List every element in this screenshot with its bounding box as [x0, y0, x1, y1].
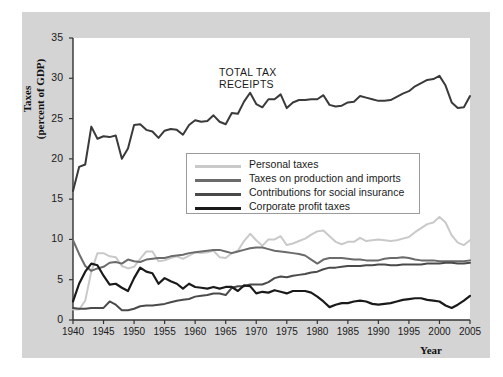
y-tick-label: 35	[37, 31, 63, 43]
legend: Personal taxesTaxes on production and im…	[186, 153, 420, 214]
total-tax-receipts-annotation: TOTAL TAX RECEIPTS	[219, 66, 277, 90]
y-axis-label: Taxes (percent of GDP)	[21, 39, 47, 159]
legend-item[interactable]: Taxes on production and imports	[195, 173, 419, 187]
y-tick-label: 10	[37, 232, 63, 244]
legend-item[interactable]: Corporate profit taxes	[195, 201, 419, 215]
series-line	[73, 264, 470, 308]
y-tick-label: 30	[37, 71, 63, 83]
legend-swatch	[195, 207, 241, 210]
y-axis-label-line1: Taxes	[21, 39, 34, 159]
y-tick-label: 5	[37, 273, 63, 285]
x-tick-label: 2005	[452, 326, 488, 337]
series-line	[73, 217, 470, 310]
annotation-line1: TOTAL TAX	[219, 66, 277, 78]
legend-label: Personal taxes	[249, 158, 318, 170]
legend-swatch	[195, 193, 241, 196]
legend-item[interactable]: Contributions for social insurance	[195, 187, 419, 201]
y-tick-label: 20	[37, 152, 63, 164]
legend-label: Contributions for social insurance	[249, 186, 404, 198]
legend-item[interactable]: Personal taxes	[195, 159, 419, 173]
y-tick-label: 25	[37, 112, 63, 124]
legend-label: Corporate profit taxes	[249, 200, 350, 212]
y-tick-label: 15	[37, 192, 63, 204]
x-axis-label: Year	[420, 344, 442, 356]
figure-root: Taxes (percent of GDP) Year TOTAL TAX RE…	[0, 0, 503, 377]
series-line	[73, 263, 470, 311]
y-axis-label-line2: (percent of GDP)	[34, 39, 47, 159]
legend-label: Taxes on production and imports	[249, 172, 401, 184]
legend-swatch	[195, 165, 241, 168]
legend-swatch	[195, 179, 241, 182]
y-tick-label: 0	[37, 313, 63, 325]
annotation-line2: RECEIPTS	[219, 78, 277, 90]
